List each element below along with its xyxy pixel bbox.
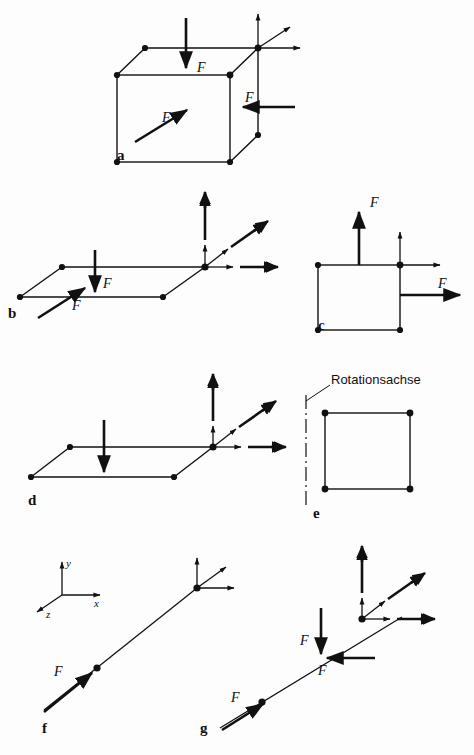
panel-letter-a: a [117,147,125,163]
panel-letter-b: b [8,305,16,321]
panel-letter-d: d [28,492,37,508]
square-vertex [407,486,414,493]
cube-vertex [255,132,261,138]
force-label-f: F [369,195,379,210]
coord-label-y: y [65,557,71,569]
coord-label-x: x [93,597,99,609]
plane-vertex [67,444,73,450]
force-label-f: F [161,110,171,125]
plane-vertex [160,294,166,300]
cube-vertex [227,72,234,79]
square-vertex [397,327,403,333]
force-label-f: F [437,276,447,291]
rotation-axis-label: Rotationsachse [331,372,421,387]
plane-vertex [59,264,65,270]
square-vertex [315,262,321,268]
coord-label-z: z [45,608,51,620]
force-label-f: F [53,664,63,679]
force-label-f: F [299,633,309,648]
mechanics-figure: F F F a F F b [0,0,474,755]
plane-vertex [28,474,34,480]
force-label-f: F [71,298,81,313]
square-vertex [322,410,329,417]
force-label-f: F [230,690,240,705]
force-label-f: F [196,60,206,75]
panel-letter-g: g [200,720,208,736]
force-label-f: F [244,90,254,105]
panel-letter-e: e [313,505,320,521]
point-on-line [93,664,100,671]
cube-vertex [114,72,120,78]
cube-vertex [142,45,148,51]
plane-vertex [17,294,23,300]
panel-letter-c: c [318,317,325,333]
square-vertex [407,410,414,417]
plane-vertex [171,474,177,480]
cube-vertex [227,159,233,165]
force-label-f: F [102,276,112,291]
square-vertex [322,486,329,493]
force-label-f: F [317,663,327,678]
